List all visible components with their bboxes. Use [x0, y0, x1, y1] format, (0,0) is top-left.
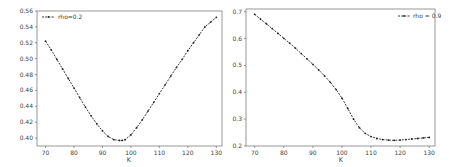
data-point: [187, 50, 189, 52]
y-tick-label: 0.52: [20, 39, 34, 46]
left-legend: rho=0.2: [42, 13, 83, 20]
right-plot-rho-0-9: 0.20.30.40.50.60.7 708090100110120130 K …: [232, 8, 441, 164]
x-tick-label: 120: [394, 149, 406, 156]
x-tick-label: 130: [211, 149, 223, 156]
x-tick-label: 70: [251, 149, 259, 156]
data-point: [124, 139, 126, 141]
data-point: [113, 139, 115, 141]
data-point: [359, 127, 361, 129]
data-point: [428, 137, 430, 139]
data-point: [170, 75, 172, 77]
legend-dot-icon: [403, 15, 405, 17]
data-point: [411, 138, 413, 140]
data-point: [289, 42, 291, 44]
left-legend-label: rho=0.2: [58, 13, 83, 20]
data-point: [210, 21, 212, 23]
left-x-axis-ticks: 708090100110120130: [42, 146, 222, 156]
y-tick-label: 0.4: [232, 88, 242, 95]
y-tick-label: 0.6: [232, 35, 242, 42]
right-plot-frame: [246, 9, 435, 146]
data-point: [341, 97, 343, 99]
left-plot-frame: [37, 11, 222, 146]
figure: 0.400.420.440.460.480.500.520.540.56 708…: [0, 0, 457, 167]
left-plot-rho-0-2: 0.400.420.440.460.480.500.520.540.56 708…: [20, 7, 223, 164]
x-tick-label: 90: [309, 149, 317, 156]
x-tick-label: 80: [280, 149, 288, 156]
data-point: [56, 59, 58, 61]
data-point: [176, 66, 178, 68]
data-point: [277, 33, 279, 35]
left-series-markers: [45, 16, 218, 141]
data-point: [382, 139, 384, 141]
data-point: [96, 123, 98, 125]
right-x-axis-label: K: [339, 156, 344, 164]
data-point: [388, 139, 390, 141]
data-point: [73, 87, 75, 89]
left-y-axis-ticks: 0.400.420.440.460.480.500.520.540.56: [20, 7, 37, 141]
y-tick-label: 0.46: [20, 86, 34, 93]
right-series-line: [255, 14, 429, 140]
data-point: [130, 134, 132, 136]
y-tick-label: 0.7: [232, 8, 242, 15]
data-point: [67, 78, 69, 80]
data-point: [260, 18, 262, 20]
data-point: [45, 40, 47, 42]
data-point: [141, 119, 143, 121]
data-point: [84, 106, 86, 108]
data-point: [181, 59, 183, 61]
data-point: [312, 63, 314, 65]
y-tick-label: 0.48: [20, 71, 34, 78]
right-legend: rho = 0.9: [398, 12, 441, 19]
y-tick-label: 0.42: [20, 118, 34, 125]
data-point: [254, 13, 256, 15]
data-point: [136, 127, 138, 129]
right-y-axis-ticks: 0.20.30.40.50.60.7: [232, 8, 246, 149]
data-point: [215, 16, 217, 18]
data-point: [153, 101, 155, 103]
x-tick-label: 130: [423, 149, 435, 156]
y-tick-label: 0.56: [20, 7, 34, 14]
y-tick-label: 0.50: [20, 55, 34, 62]
y-tick-label: 0.44: [20, 102, 34, 109]
data-point: [283, 37, 285, 39]
data-point: [121, 140, 123, 142]
data-point: [107, 136, 109, 138]
data-point: [422, 137, 424, 139]
data-point: [204, 26, 206, 28]
right-series-markers: [254, 13, 430, 141]
data-point: [50, 49, 52, 51]
data-point: [405, 139, 407, 141]
data-point: [193, 42, 195, 44]
data-point: [347, 107, 349, 109]
y-tick-label: 0.54: [20, 23, 34, 30]
left-x-axis-label: K: [127, 156, 132, 164]
data-point: [306, 58, 308, 60]
y-tick-label: 0.3: [232, 115, 242, 122]
data-point: [158, 93, 160, 95]
data-point: [376, 138, 378, 140]
data-point: [364, 132, 366, 134]
data-point: [399, 139, 401, 141]
right-legend-label: rho = 0.9: [413, 12, 441, 19]
data-point: [90, 115, 92, 117]
left-series-line: [46, 17, 217, 140]
data-point: [300, 53, 302, 55]
x-tick-label: 100: [125, 149, 137, 156]
x-tick-label: 90: [99, 149, 107, 156]
right-x-axis-ticks: 708090100110120130: [251, 146, 435, 156]
data-point: [164, 84, 166, 86]
y-tick-label: 0.5: [232, 61, 242, 68]
data-point: [62, 68, 64, 70]
data-point: [271, 28, 273, 30]
data-point: [79, 97, 81, 99]
y-tick-label: 0.40: [20, 134, 34, 141]
data-point: [318, 69, 320, 71]
data-point: [417, 138, 419, 140]
data-point: [147, 110, 149, 112]
data-point: [393, 139, 395, 141]
data-point: [102, 130, 104, 132]
y-tick-label: 0.2: [232, 142, 242, 149]
x-tick-label: 110: [154, 149, 166, 156]
data-point: [370, 136, 372, 138]
legend-dot-icon: [48, 16, 50, 18]
